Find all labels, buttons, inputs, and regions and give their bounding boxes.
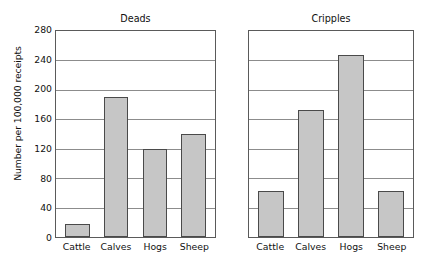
y-axis-title: Number per 100,000 receipts (12, 29, 23, 199)
bar-chart-figure: Number per 100,000 receipts 280240200160… (0, 0, 429, 271)
bar-calves[interactable] (298, 110, 323, 237)
x-tick-label-hogs: Hogs (331, 241, 372, 252)
y-tick-label: 200 (34, 85, 52, 94)
y-tick-label: 280 (34, 25, 52, 34)
bar-calves[interactable] (104, 97, 128, 237)
bar-sheep[interactable] (181, 134, 205, 237)
x-axis-tick-labels-deads: CattleCalvesHogsSheep (55, 241, 216, 252)
x-tick-label-cattle: Cattle (250, 241, 291, 252)
bar-slot (371, 31, 411, 237)
x-tick-label-calves: Calves (96, 241, 135, 252)
bar-slot (251, 31, 291, 237)
panel-cripples: Cripples CattleCalvesHogsSheep (248, 30, 414, 238)
bar-slot (97, 31, 136, 237)
y-tick-label: 240 (34, 55, 52, 64)
bar-sheep[interactable] (378, 191, 403, 237)
panel-deads: Deads CattleCalvesHogsSheep (55, 30, 216, 238)
plot-area-cripples (248, 30, 414, 238)
y-tick-label: 80 (40, 174, 52, 183)
y-tick-label: 120 (34, 144, 52, 153)
bar-slot (136, 31, 175, 237)
x-tick-label-sheep: Sheep (175, 241, 214, 252)
bar-hogs[interactable] (338, 55, 363, 237)
y-axis-tick-labels: 28024020016012080400 (22, 24, 52, 244)
plot-area-deads (55, 30, 216, 238)
bar-slot (58, 31, 97, 237)
y-tick-label: 40 (40, 204, 52, 213)
bar-cattle[interactable] (258, 191, 283, 237)
panel-title-cripples: Cripples (248, 13, 414, 24)
panel-title-deads: Deads (55, 13, 216, 24)
bar-group-cripples (249, 31, 413, 237)
y-tick-label: 0 (46, 233, 52, 242)
bar-hogs[interactable] (143, 149, 167, 237)
x-tick-label-sheep: Sheep (372, 241, 413, 252)
bar-slot (291, 31, 331, 237)
bar-slot (331, 31, 371, 237)
bar-slot (174, 31, 213, 237)
bar-cattle[interactable] (65, 224, 89, 237)
x-tick-label-hogs: Hogs (136, 241, 175, 252)
x-tick-label-calves: Calves (291, 241, 332, 252)
x-tick-label-cattle: Cattle (57, 241, 96, 252)
bar-group-deads (56, 31, 215, 237)
x-axis-tick-labels-cripples: CattleCalvesHogsSheep (248, 241, 414, 252)
y-tick-label: 160 (34, 114, 52, 123)
